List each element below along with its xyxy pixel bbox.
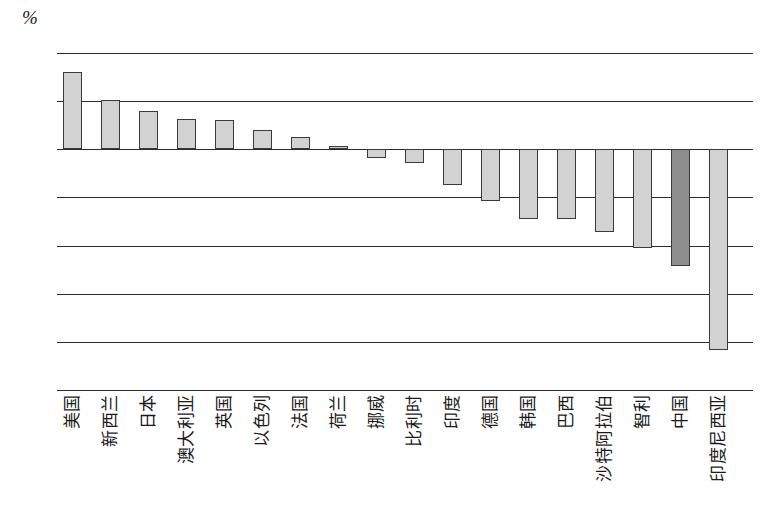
bar: [291, 137, 310, 149]
x-axis-tick-label-text: 日本: [140, 394, 157, 429]
x-axis-tick-label-text: 法国: [292, 394, 309, 429]
bar: [481, 149, 500, 201]
x-axis-tick-label-text: 韩国: [520, 394, 537, 429]
bar: [709, 149, 728, 350]
bar: [253, 130, 272, 149]
bar: [63, 72, 82, 149]
x-axis-tick-label-text: 新西兰: [102, 394, 119, 447]
bar: [139, 111, 158, 150]
x-axis-tick-label-text: 中国: [672, 394, 689, 429]
x-axis-tick-label-text: 挪威: [368, 394, 385, 429]
gridline: [57, 53, 753, 54]
bar: [519, 149, 538, 219]
gridline: [57, 294, 753, 295]
chart-figure: % 420−2−4−6−8−10 美国新西兰日本澳大利亚英国以色列法国荷兰挪威比…: [0, 0, 763, 513]
bar: [633, 149, 652, 248]
x-axis-tick-labels: 美国新西兰日本澳大利亚英国以色列法国荷兰挪威比利时印度德国韩国巴西沙特阿拉伯智利…: [57, 394, 753, 513]
x-axis-tick-label-text: 比利时: [406, 394, 423, 447]
x-axis-tick-label-text: 以色列: [254, 394, 271, 447]
bar: [101, 100, 120, 149]
bar: [405, 149, 424, 162]
y-axis-unit-label: %: [22, 8, 38, 27]
x-axis-tick-label-text: 英国: [216, 394, 233, 429]
bar: [443, 149, 462, 185]
x-axis-tick-label-text: 荷兰: [330, 394, 347, 429]
bar: [367, 149, 386, 157]
x-axis-tick-label-text: 德国: [482, 394, 499, 429]
x-axis-tick-label-text: 巴西: [558, 394, 575, 429]
bar: [595, 149, 614, 232]
bar: [671, 149, 690, 266]
bar: [329, 146, 348, 150]
x-axis-tick-label-text: 澳大利亚: [178, 394, 195, 464]
bar: [215, 120, 234, 149]
x-axis-tick-label-text: 美国: [64, 394, 81, 429]
plot-area: [57, 53, 753, 390]
gridline: [57, 342, 753, 343]
gridline: [57, 101, 753, 102]
x-axis-tick-label-text: 印度: [444, 394, 461, 429]
gridline: [57, 390, 753, 391]
x-axis-tick-label-text: 印度尼西亚: [710, 394, 727, 482]
bar: [557, 149, 576, 219]
bar: [177, 119, 196, 149]
x-axis-tick-label-text: 智利: [634, 394, 651, 429]
x-axis-tick-label-text: 沙特阿拉伯: [596, 394, 613, 482]
